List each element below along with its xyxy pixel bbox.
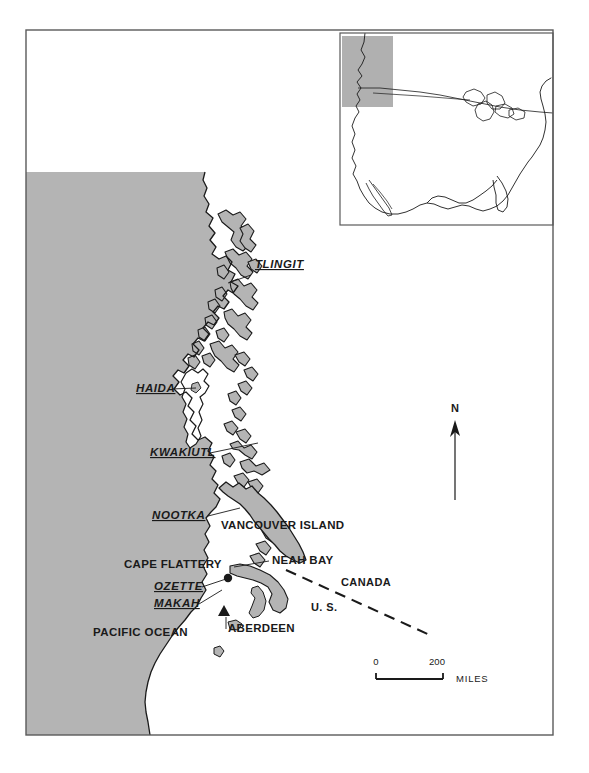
place-label-aberdeen: ABERDEEN [228,622,295,634]
tribe-label-tlingit: TLINGIT [255,258,304,270]
scale-bar-unit-label: MILES [456,673,489,684]
place-label-cape-flattery: CAPE FLATTERY [124,558,222,570]
map-canvas: TLINGIT HAIDA KWAKIUTL NOOTKA OZETTE MAK… [0,0,589,773]
tribe-label-nootka: NOOTKA [152,509,205,521]
tribe-label-haida: HAIDA [136,382,175,394]
place-label-vancouver-island: VANCOUVER ISLAND [221,519,344,531]
place-label-neah-bay: NEAH BAY [272,554,333,566]
ocean-label-pacific: PACIFIC OCEAN [93,626,188,638]
scale-bar-max-label: 200 [429,656,445,667]
tribe-label-ozette: OZETTE [154,580,203,592]
country-label-united-states: U. S. [311,601,337,613]
country-label-canada: CANADA [341,576,391,588]
tribe-label-kwakiutl: KWAKIUTL [150,446,215,458]
ozette-site-marker [224,574,232,582]
scale-bar-min-label: 0 [373,656,378,667]
united-states-locator-inset [340,33,553,225]
north-arrow-label: N [451,402,459,414]
inset-highlight-box [342,36,393,107]
map-figure: TLINGIT HAIDA KWAKIUTL NOOTKA OZETTE MAK… [0,0,589,773]
tribe-label-makah: MAKAH [154,597,200,609]
